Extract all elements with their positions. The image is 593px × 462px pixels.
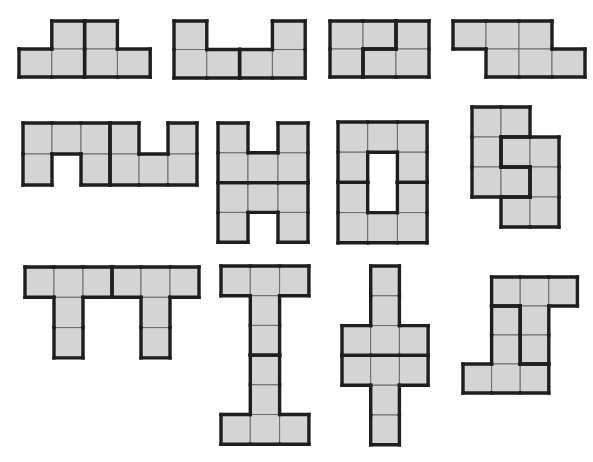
grid-cell (371, 296, 400, 326)
grid-cell (530, 167, 559, 197)
grid-cell (519, 21, 552, 49)
grid-cell (342, 355, 371, 385)
grid-cell (278, 123, 308, 153)
grid-cell (141, 328, 170, 358)
figure-7 (338, 122, 427, 243)
figure-9 (25, 267, 199, 358)
grid-cell (278, 183, 308, 213)
grid-cell (520, 306, 549, 335)
grid-cell (453, 21, 486, 49)
grid-cell (338, 182, 368, 212)
grid-cell (463, 364, 492, 393)
grid-cell (250, 325, 279, 355)
grid-cell (371, 326, 400, 356)
grid-cell (399, 326, 428, 356)
grid-cell (170, 267, 199, 297)
grid-cell (330, 49, 363, 77)
grid-cell (250, 415, 279, 445)
grid-cell (221, 415, 250, 445)
figure-6 (218, 123, 308, 242)
grid-cell (272, 21, 305, 50)
grid-cell (117, 49, 150, 77)
grid-cell (81, 154, 110, 185)
figure-3 (330, 21, 429, 77)
grid-cell (52, 49, 85, 77)
grid-cell (371, 385, 400, 415)
grid-cell (363, 49, 396, 77)
grid-cell (54, 267, 83, 297)
grid-cell (371, 415, 400, 445)
grid-cell (218, 212, 248, 242)
grid-cell (338, 122, 368, 152)
grid-cell (52, 123, 81, 154)
grid-cell (218, 153, 248, 183)
figure-4 (453, 21, 585, 77)
grid-cell (397, 213, 427, 243)
grid-cell (520, 335, 549, 364)
grid-cell (23, 154, 52, 185)
grid-cell (501, 197, 530, 227)
grid-cell (250, 296, 279, 326)
grid-cell (81, 123, 110, 154)
figure-12 (463, 277, 577, 393)
grid-cell (338, 152, 368, 182)
grid-cell (338, 213, 368, 243)
grid-cell (397, 122, 427, 152)
figure-canvas (0, 0, 593, 462)
grid-cell (250, 355, 279, 385)
grid-cell (342, 326, 371, 356)
grid-cell (110, 154, 139, 185)
grid-cell (501, 137, 530, 167)
grid-cell (174, 21, 207, 50)
grid-cell (371, 266, 400, 296)
grid-cell (218, 123, 248, 153)
grid-cell (363, 21, 396, 49)
grid-cell (330, 21, 363, 49)
grid-cell (52, 21, 85, 49)
grid-cell (552, 49, 585, 77)
figure-8 (472, 107, 559, 227)
figure-10 (221, 266, 309, 444)
grid-cell (399, 355, 428, 385)
grid-cell (472, 167, 501, 197)
grid-cell (492, 335, 521, 364)
grid-cell (139, 154, 168, 185)
grid-cell (272, 50, 305, 79)
grid-cell (112, 267, 141, 297)
grid-cell (278, 153, 308, 183)
grid-cell (280, 266, 309, 296)
grid-cell (530, 197, 559, 227)
grid-cell (19, 49, 52, 77)
grid-cell (168, 154, 197, 185)
grid-cell (520, 277, 549, 306)
grid-cell (221, 266, 250, 296)
grid-cell (25, 267, 54, 297)
grid-cell (368, 122, 398, 152)
grid-cell (519, 49, 552, 77)
grid-cell (23, 123, 52, 154)
grid-cell (549, 277, 578, 306)
grid-cell (248, 183, 278, 213)
grid-cell (141, 267, 170, 297)
grid-cell (530, 137, 559, 167)
grid-cell (168, 123, 197, 154)
grid-cell (54, 297, 83, 327)
grid-cell (492, 364, 521, 393)
grid-cell (397, 182, 427, 212)
grid-cell (278, 212, 308, 242)
grid-cell (240, 50, 273, 79)
grid-cell (110, 123, 139, 154)
grid-cell (54, 328, 83, 358)
grid-cell (492, 277, 521, 306)
figure-5 (23, 123, 197, 185)
grid-cell (218, 183, 248, 213)
figure-11 (342, 266, 428, 445)
figure-2 (174, 21, 305, 78)
grid-cell (250, 385, 279, 415)
grid-cell (85, 49, 118, 77)
grid-cell (492, 306, 521, 335)
grid-cell (397, 152, 427, 182)
grid-cell (371, 355, 400, 385)
grid-cell (472, 137, 501, 167)
grid-cell (396, 21, 429, 49)
